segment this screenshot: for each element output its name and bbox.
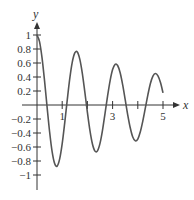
x-axis-arrow-icon [173, 102, 180, 108]
x-tick-label: 5 [160, 110, 166, 122]
y-tick-label: 1 [26, 29, 32, 41]
y-tick-label: 0.4 [17, 71, 31, 83]
y-tick-label: −0.6 [11, 141, 31, 153]
y-tick-label: 0.2 [17, 85, 31, 97]
data-series-line [37, 35, 163, 166]
y-axis-label: y [32, 7, 39, 21]
y-tick-label: −0.2 [11, 113, 31, 125]
axes [22, 22, 180, 190]
y-axis-arrow-icon [34, 22, 40, 29]
y-tick-label: −0.4 [11, 127, 31, 139]
y-tick-label: 0.6 [17, 57, 31, 69]
y-tick-label: −1 [19, 169, 31, 181]
x-axis-label: x [182, 98, 189, 112]
x-tick-label: 3 [110, 110, 116, 122]
chart: 13510.80.60.40.2−0.2−0.4−0.6−0.8−1 x y [0, 0, 194, 200]
y-tick-label: −0.8 [11, 155, 31, 167]
x-tick-label: 1 [59, 110, 65, 122]
y-tick-label: 0.8 [17, 43, 31, 55]
